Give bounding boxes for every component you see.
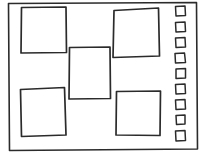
panel-bottom-right[interactable] bbox=[116, 91, 161, 136]
outer-frame bbox=[9, 3, 198, 151]
checkbox-column bbox=[175, 6, 186, 141]
checkbox-item-6[interactable] bbox=[176, 84, 186, 94]
checkbox-item-4[interactable] bbox=[175, 53, 186, 63]
panel-center[interactable] bbox=[69, 47, 111, 99]
sketch-surface bbox=[0, 0, 204, 158]
checkbox-item-5[interactable] bbox=[176, 69, 186, 79]
panel-top-left[interactable] bbox=[21, 7, 67, 53]
checkbox-item-3[interactable] bbox=[176, 38, 186, 48]
checkbox-item-8[interactable] bbox=[176, 115, 185, 125]
checkbox-item-2[interactable] bbox=[176, 22, 186, 32]
wireframe-sketch-canvas bbox=[0, 0, 204, 158]
panel-group bbox=[21, 7, 161, 137]
panel-bottom-left[interactable] bbox=[21, 88, 67, 137]
checkbox-item-9[interactable] bbox=[176, 131, 186, 142]
panel-top-right[interactable] bbox=[113, 8, 160, 58]
checkbox-item-7[interactable] bbox=[176, 100, 186, 110]
checkbox-item-1[interactable] bbox=[176, 6, 186, 16]
